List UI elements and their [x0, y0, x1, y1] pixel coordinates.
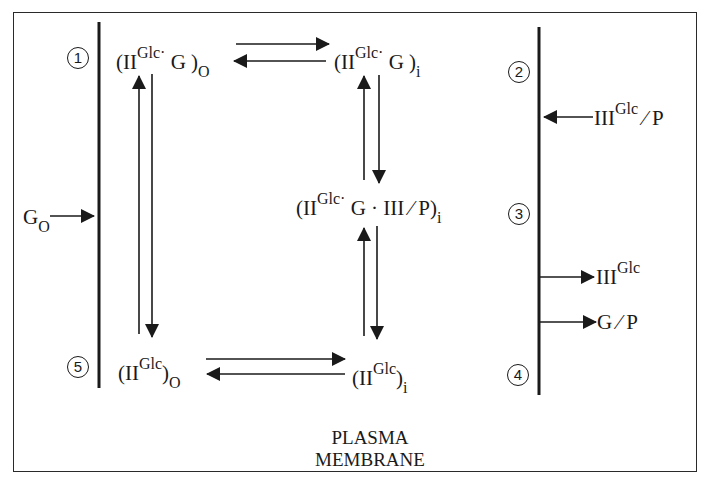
species-iiglc-inside: (IIGlc)i [352, 368, 408, 389]
species-iiglc-g-inside: (IIGlc· G )i [334, 52, 421, 73]
species-iiglc-g-outside: (IIGlc· G )O [116, 52, 210, 73]
species-iiglc-outside: (IIGlc)O [118, 363, 181, 384]
species-glucose-phosphate: G ⁄ P [597, 312, 638, 333]
species-complex-inside: (IIGlc· G · III ⁄ P)i [296, 198, 441, 219]
species-iiiglc: IIIGlc [596, 267, 640, 288]
step-marker-2: 2 [508, 61, 530, 83]
species-iiiglc-p: IIIGlc ⁄ P [594, 108, 664, 129]
step-marker-4: 4 [507, 364, 529, 386]
step-marker-3: 3 [508, 203, 530, 225]
step-marker-5: 5 [67, 356, 89, 378]
caption-line-1: PLASMA [290, 427, 450, 449]
step-marker-1: 1 [67, 47, 89, 69]
species-glucose-outside: GO [23, 207, 50, 228]
caption-line-2: MEMBRANE [290, 449, 450, 471]
